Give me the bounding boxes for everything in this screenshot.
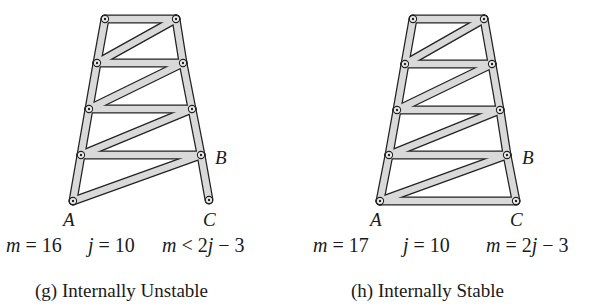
truss-diagrams bbox=[0, 0, 590, 308]
pin-center-icon bbox=[175, 18, 177, 20]
pin-center-icon bbox=[104, 18, 106, 20]
formula-h-j: j = 10 bbox=[403, 235, 450, 255]
pin-center-icon bbox=[191, 108, 193, 110]
pin-center-icon bbox=[200, 154, 202, 156]
caption-h: (h) Internally Stable bbox=[351, 281, 504, 300]
member-fill bbox=[397, 64, 492, 110]
pin-center-icon bbox=[491, 63, 493, 65]
member-fill bbox=[192, 109, 201, 155]
formula-h-relation: m = 2j − 3 bbox=[486, 235, 569, 255]
label-h-c: C bbox=[510, 210, 523, 229]
member-fill bbox=[89, 63, 183, 109]
truss-h bbox=[376, 15, 519, 204]
pin-center-icon bbox=[96, 62, 98, 64]
label-g-b: B bbox=[215, 148, 227, 167]
member-fill bbox=[97, 19, 176, 63]
member-fill bbox=[507, 155, 516, 201]
pin-center-icon bbox=[80, 154, 82, 156]
caption-g: (g) Internally Unstable bbox=[35, 281, 208, 300]
member-fill bbox=[405, 19, 484, 64]
formula-h-m: m = 17 bbox=[313, 235, 369, 255]
pin-center-icon bbox=[515, 200, 517, 202]
formula-g-relation: m < 2j − 3 bbox=[162, 235, 245, 255]
truss-g bbox=[69, 15, 212, 204]
label-g-a: A bbox=[63, 210, 75, 229]
pin-center-icon bbox=[72, 200, 74, 202]
formula-g-j: j = 10 bbox=[88, 235, 135, 255]
member-fill bbox=[73, 155, 201, 201]
member-fill bbox=[201, 155, 209, 200]
label-h-a: A bbox=[370, 210, 382, 229]
pin-center-icon bbox=[88, 108, 90, 110]
member-fill bbox=[176, 19, 183, 63]
member-fill bbox=[183, 63, 192, 109]
pin-center-icon bbox=[412, 18, 414, 20]
pin-center-icon bbox=[499, 109, 501, 111]
pin-center-icon bbox=[404, 63, 406, 65]
member-fill bbox=[500, 110, 507, 155]
member-fill bbox=[389, 110, 500, 155]
pin-center-icon bbox=[182, 62, 184, 64]
pin-center-icon bbox=[506, 154, 508, 156]
member-fill bbox=[81, 109, 192, 155]
pin-center-icon bbox=[483, 18, 485, 20]
label-h-b: B bbox=[522, 148, 534, 167]
formula-g-m: m = 16 bbox=[6, 235, 62, 255]
pin-center-icon bbox=[396, 109, 398, 111]
member-fill bbox=[492, 64, 500, 110]
pin-center-icon bbox=[379, 200, 381, 202]
pin-center-icon bbox=[208, 199, 210, 201]
label-g-c: C bbox=[203, 210, 216, 229]
member-fill bbox=[380, 155, 507, 201]
pin-center-icon bbox=[388, 154, 390, 156]
member-fill bbox=[484, 19, 492, 64]
